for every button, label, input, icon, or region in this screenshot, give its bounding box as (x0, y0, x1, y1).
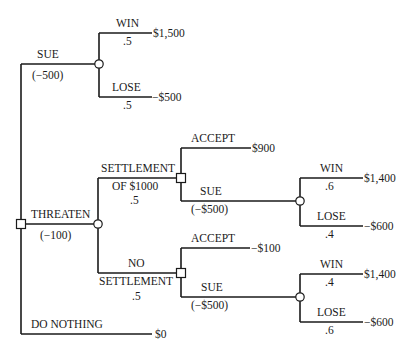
sue-win-label: WIN (116, 17, 140, 29)
no-settlement-label-line2: SETTLEMENT (99, 275, 173, 287)
no-settlement-accept-value: −$100 (251, 242, 281, 254)
settlement-decision-node (177, 174, 186, 183)
sue-chance-node (95, 60, 103, 68)
settlement-accept-value: $900 (252, 142, 275, 154)
branch-do-nothing: DO NOTHING $0 (21, 318, 167, 340)
settlement-prob: .5 (130, 194, 139, 206)
settlement-lose-label: LOSE (317, 210, 346, 222)
settlement-lose-value: −$600 (364, 220, 394, 232)
settlement-lose-prob: .4 (325, 228, 334, 240)
settlement-label-line1: SETTLEMENT (101, 162, 175, 174)
sue-cost: (−500) (32, 69, 64, 82)
no-settlement-win-prob: .4 (325, 276, 334, 288)
sue-win-prob: .5 (123, 35, 132, 47)
threaten-label: THREATEN (31, 208, 91, 220)
no-settlement-prob: .5 (132, 290, 141, 302)
no-settlement-lose-prob: .6 (325, 324, 334, 336)
threaten-cost: (−100) (40, 229, 72, 242)
no-settlement-sue-chance-node (296, 293, 304, 301)
no-settlement-label-line1: NO (128, 257, 145, 269)
root-decision-node (17, 220, 26, 229)
settlement-accept-label: ACCEPT (191, 132, 235, 144)
no-settlement-lose-value: −$600 (364, 316, 394, 328)
threaten-chance-node (94, 220, 102, 228)
sue-lose-label: LOSE (112, 81, 141, 93)
no-settlement-sue-label: SUE (201, 281, 223, 293)
branch-threaten: THREATEN (−100) SETTLEMENT OF $1000 .5 A… (21, 132, 396, 336)
sue-lose-value: −$500 (152, 91, 182, 103)
settlement-sue-cost: (−$500) (191, 203, 228, 216)
no-settlement-lose-label: LOSE (317, 306, 346, 318)
settlement-win-label: WIN (320, 162, 344, 174)
no-settlement-win-label: WIN (320, 258, 344, 270)
branch-sue: SUE (−500) WIN .5 $1,500 LOSE .5 −$500 (21, 17, 185, 111)
sue-lose-prob: .5 (123, 99, 132, 111)
sue-label: SUE (37, 48, 59, 60)
do-nothing-label: DO NOTHING (31, 318, 103, 330)
decision-tree-diagram: SUE (−500) WIN .5 $1,500 LOSE .5 −$500 T… (0, 0, 414, 355)
no-settlement-decision-node (177, 269, 186, 278)
settlement-win-prob: .6 (325, 180, 334, 192)
no-settlement-win-value: $1,400 (364, 268, 396, 281)
sue-win-value: $1,500 (153, 27, 185, 40)
settlement-win-value: $1,400 (364, 172, 396, 185)
settlement-sue-chance-node (296, 197, 304, 205)
no-settlement-accept-label: ACCEPT (191, 232, 235, 244)
settlement-sue-label: SUE (200, 185, 222, 197)
no-settlement-sue-cost: (−$500) (191, 299, 228, 312)
settlement-label-line2: OF $1000 (112, 180, 159, 192)
do-nothing-value: $0 (155, 328, 167, 340)
